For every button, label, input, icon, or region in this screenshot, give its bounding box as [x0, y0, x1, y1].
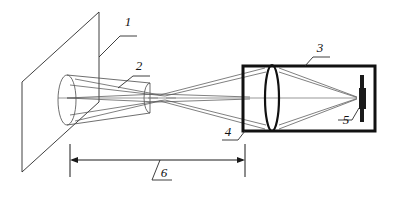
working-distance-dimension	[70, 144, 245, 177]
projection-screen	[22, 12, 99, 172]
label-6: 6	[161, 165, 168, 180]
camera-body	[243, 66, 375, 131]
label-1: 1	[125, 14, 132, 29]
figure-canvas: 1 2 3 4 5 6	[0, 0, 400, 209]
label-3: 3	[316, 40, 324, 55]
label-2: 2	[136, 58, 143, 73]
label-4: 4	[225, 124, 232, 139]
optical-schematic-svg: 1 2 3 4 5 6	[0, 0, 400, 209]
sensor-chip	[359, 75, 366, 122]
label-5: 5	[343, 112, 350, 127]
